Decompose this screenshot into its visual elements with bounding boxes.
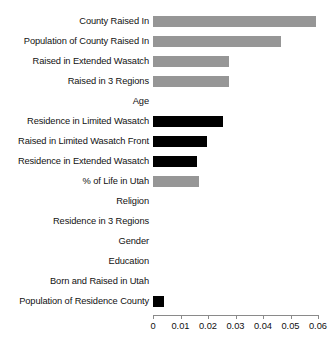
category-label: Born and Raised in Utah	[0, 276, 149, 286]
bar	[153, 296, 164, 307]
category-label: % of Life in Utah	[0, 176, 149, 186]
x-axis-tick	[263, 315, 264, 319]
category-label: Population of Residence County	[0, 296, 149, 306]
category-label: Raised in Limited Wasatch Front	[0, 136, 149, 146]
x-axis-tick-label: 0.01	[171, 321, 189, 332]
x-axis-tick	[291, 315, 292, 319]
x-axis-tick	[318, 315, 319, 319]
category-label: Education	[0, 256, 149, 266]
bar	[153, 76, 229, 87]
x-axis-tick-label: 0.03	[226, 321, 244, 332]
category-label: Raised in 3 Regions	[0, 76, 149, 86]
x-axis-tick-label: 0.06	[309, 321, 327, 332]
category-label: Population of County Raised In	[0, 36, 149, 46]
bar	[153, 156, 197, 167]
x-axis-tick	[208, 315, 209, 319]
x-axis-tick-label: 0.04	[254, 321, 272, 332]
bar	[153, 36, 281, 47]
bar	[153, 16, 316, 27]
category-label: County Raised In	[0, 16, 149, 26]
category-label: Age	[0, 96, 149, 106]
bar-chart: County Raised InPopulation of County Rai…	[0, 0, 333, 344]
bar	[153, 136, 207, 147]
category-label-column: County Raised InPopulation of County Rai…	[0, 10, 149, 315]
category-label: Religion	[0, 196, 149, 206]
bar	[153, 56, 229, 67]
category-label: Raised in Extended Wasatch	[0, 56, 149, 66]
category-label: Residence in Limited Wasatch	[0, 116, 149, 126]
plot-area	[153, 10, 318, 315]
x-axis-tick-label: 0.05	[281, 321, 299, 332]
bar	[153, 176, 199, 187]
category-label: Residence in Extended Wasatch	[0, 156, 149, 166]
x-axis-tick	[236, 315, 237, 319]
x-axis-tick-label: 0.02	[199, 321, 217, 332]
category-label: Residence in 3 Regions	[0, 216, 149, 226]
bar	[153, 116, 223, 127]
x-axis-tick	[153, 315, 154, 319]
category-label: Gender	[0, 236, 149, 246]
x-axis-tick	[181, 315, 182, 319]
x-axis-tick-label: 0	[150, 321, 155, 332]
